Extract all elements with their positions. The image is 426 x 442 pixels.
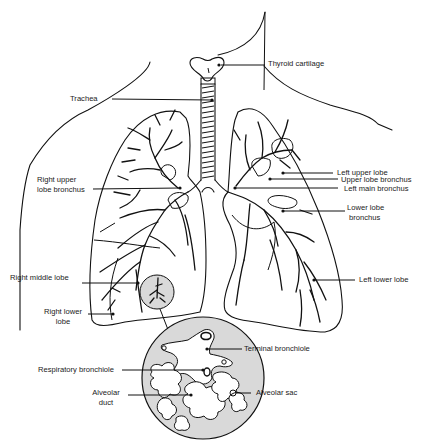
label-alveolar-duct: Alveolar duct [86,388,126,408]
label-alveolar-sac: Alveolar sac [256,388,297,398]
right-lung [82,110,206,340]
label-line-2: bronchus [347,213,384,223]
label-right-middle-lobe: Right middle lobe [10,273,69,283]
label-line-2: lobe bronchus [20,185,90,195]
label-line-2: lobe [40,317,86,327]
label-line-1: Right upper [20,175,90,185]
label-lower-lobe-bronchus: Lower lobe bronchus [347,203,384,223]
left-lung [223,109,355,332]
label-terminal-bronchiole: Terminal bronchiole [244,344,310,354]
label-left-main-bronchus: Left main bronchus [344,184,409,194]
label-right-upper-lobe-bronchus: Right upper lobe bronchus [20,175,90,195]
label-trachea: Trachea [70,94,98,104]
label-left-lower-lobe: Left lower lobe [359,275,408,285]
alveolar-inset [122,317,264,439]
label-thyroid-cartilage: Thyroid cartilage [268,59,324,69]
label-line-1: Lower lobe [347,203,384,213]
label-right-lower-lobe: Right lower lobe [40,307,86,327]
label-line-1: Right lower [40,307,86,317]
label-line-2: duct [86,398,126,408]
label-respiratory-bronchiole: Respiratory bronchiole [38,365,114,375]
label-line-1: Alveolar [86,388,126,398]
